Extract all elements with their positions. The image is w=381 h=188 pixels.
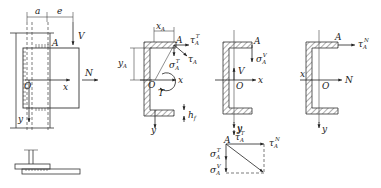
label-sigmaV-vec: σAV [210, 163, 222, 176]
label-V: V [78, 31, 86, 41]
panel-a-elevation: a e V A N O x y [10, 6, 98, 132]
panel-b-torsion: xA A yA x O T τAT τA σAT hf y [117, 21, 200, 135]
panel-d-axial: x O N A τAN y [300, 30, 369, 134]
label-sigmaT: σAT [169, 58, 180, 71]
label-tauN: τAN [358, 37, 369, 50]
label-x-d: x [300, 69, 305, 79]
weld-section-c [223, 42, 252, 114]
label-tauT: τAT [190, 33, 200, 46]
panel-c-shear: x O V A σAV y [215, 30, 268, 134]
stress-vector-diagram: y A τAT τAN σAT σAV [210, 123, 280, 176]
label-hf: hf [188, 110, 197, 122]
bracket-plate-plan [22, 169, 80, 174]
weld-section-b [144, 42, 176, 116]
label-tauN-vec: τAN [269, 136, 280, 149]
bracket-plate [23, 48, 79, 108]
label-A-c: A [253, 36, 261, 46]
label-O-c: O [236, 81, 244, 91]
label-y: y [17, 114, 24, 124]
label-V-c: V [238, 66, 246, 76]
label-tauA: τA [188, 54, 197, 65]
label-O-b: O [148, 80, 156, 90]
label-O-d: O [322, 81, 330, 91]
resultant-arrow [226, 144, 263, 172]
label-A-b: A [175, 35, 183, 45]
column-flange [15, 164, 50, 169]
weld-ticks-top [36, 44, 48, 48]
panel-a-plan [15, 150, 80, 174]
label-A: A [51, 38, 59, 48]
label-O: O [24, 81, 32, 91]
label-xA: xA [156, 21, 165, 32]
label-x: x [63, 82, 68, 92]
label-tauT-vec: τAT [235, 130, 245, 143]
label-a: a [35, 6, 40, 16]
label-e: e [57, 6, 62, 16]
tau-A-arrow [174, 45, 187, 56]
label-y-b: y [150, 125, 157, 135]
label-y-d: y [321, 124, 328, 134]
weld-stress-diagram: a e V A N O x y xA A yA [0, 0, 381, 188]
label-x-c: x [258, 75, 263, 85]
label-N: N [84, 68, 94, 78]
label-A-vec: A [223, 135, 231, 145]
label-A-d: A [334, 32, 342, 42]
label-x-b: x [178, 75, 183, 85]
weld-section-d [306, 42, 338, 114]
label-T: T [158, 88, 165, 98]
label-N-d: N [344, 75, 354, 85]
label-yA: yA [117, 58, 127, 69]
label-sigmaV: σAV [256, 52, 268, 65]
label-sigmaT-vec: σAT [210, 147, 221, 160]
